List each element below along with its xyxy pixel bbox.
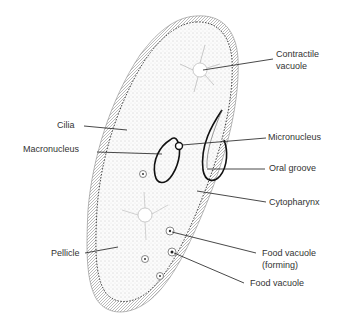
label-pellicle: Pellicle bbox=[51, 248, 80, 259]
micronucleus-shape bbox=[176, 143, 183, 150]
label-food-vacuole-forming-line1: Food vacuole bbox=[262, 248, 316, 259]
label-food-vacuole: Food vacuole bbox=[250, 278, 304, 289]
label-contractile-vacuole-line1: Contractile bbox=[276, 49, 319, 60]
label-contractile-vacuole-line2: vacuole bbox=[276, 61, 307, 72]
label-macronucleus: Macronucleus bbox=[23, 144, 79, 155]
label-oral-groove: Oral groove bbox=[269, 163, 316, 174]
label-cilia: Cilia bbox=[57, 120, 75, 131]
paramecium-diagram: Contractile vacuole Cilia Micronucleus M… bbox=[0, 0, 350, 330]
label-cytopharynx: Cytopharynx bbox=[269, 197, 320, 208]
label-food-vacuole-forming-line2: (forming) bbox=[262, 260, 298, 271]
body-pellicle bbox=[96, 22, 232, 302]
label-micronucleus: Micronucleus bbox=[268, 132, 321, 143]
